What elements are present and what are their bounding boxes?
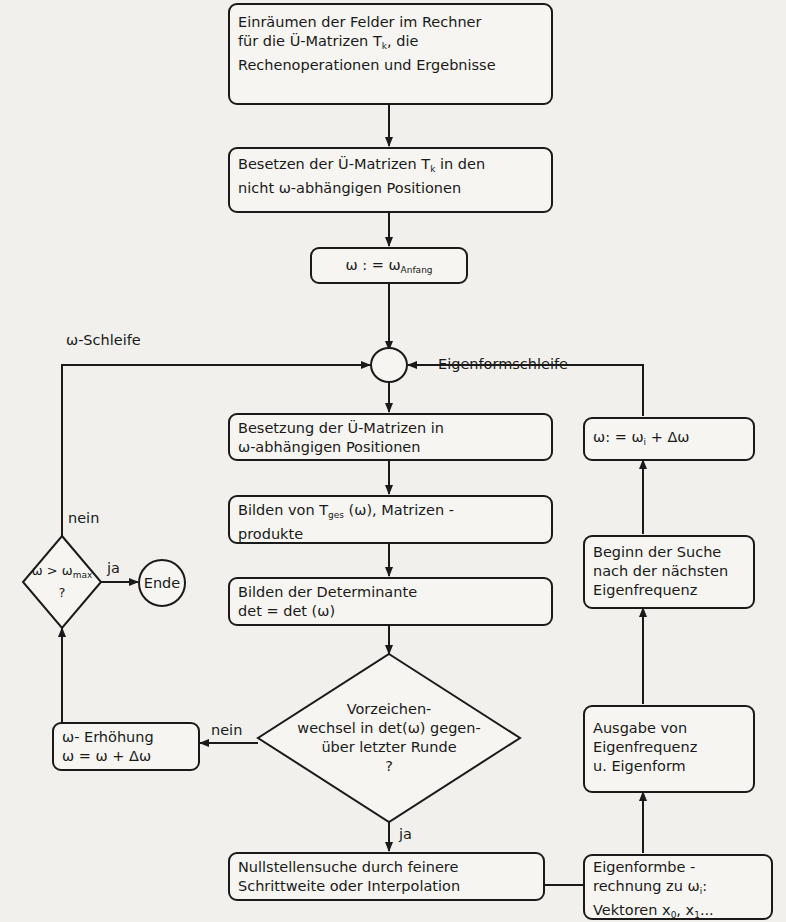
omega-loop-label: ω-Schleife bbox=[66, 332, 141, 348]
eigenform-calc-line-2: rechnung zu ωi: bbox=[593, 877, 763, 901]
next-search-line-2: nach der nächsten bbox=[593, 562, 745, 581]
output-line-1: Ausgabe von bbox=[593, 719, 745, 738]
omega-dependent-matrices-box: Besetzung der Ü-Matrizen in ω-abhängigen… bbox=[228, 413, 553, 461]
next-search-line-3: Eigenfrequenz bbox=[593, 581, 745, 600]
nein-sign-change-label: nein bbox=[211, 722, 242, 738]
set-matrices-box: Besetzen der Ü-Matrizen Tk in den nicht … bbox=[228, 147, 553, 213]
omega-increment-line-2: ω = ω + Δω bbox=[62, 747, 190, 766]
matrix-products-line-1: Bilden von Tges (ω), Matrizen - bbox=[238, 501, 543, 525]
zero-search-line-2: Schrittweite oder Interpolation bbox=[238, 877, 535, 896]
allocate-line-3: Rechenoperationen und Ergebnisse bbox=[238, 56, 543, 75]
omega-start-box: ω : = ωAnfang bbox=[310, 247, 468, 284]
allocate-line-1: Einräumen der Felder im Rechner bbox=[238, 13, 543, 32]
omega-dependent-line-2: ω-abhängigen Positionen bbox=[238, 438, 543, 457]
output-line-2: Eigenfrequenz bbox=[593, 738, 745, 757]
omega-start-text: ω : = ωAnfang bbox=[345, 257, 432, 273]
loop-junction-circle bbox=[370, 347, 408, 383]
zero-search-box: Nullstellensuche durch feinere Schrittwe… bbox=[228, 852, 545, 901]
eigenform-calc-line-3: Vektoren x0, x1... bbox=[593, 901, 763, 922]
omega-dependent-line-1: Besetzung der Ü-Matrizen in bbox=[238, 419, 543, 438]
omega-next-box: ω: = ωi + Δω bbox=[583, 417, 755, 461]
set-matrices-line-2: nicht ω-abhängigen Positionen bbox=[238, 179, 543, 198]
nein-omega-max-label: nein bbox=[68, 510, 99, 526]
next-search-line-1: Beginn der Suche bbox=[593, 543, 745, 562]
allocate-line-2: für die Ü-Matrizen Tk, die bbox=[238, 32, 543, 56]
omega-next-text: ω: = ωi + Δω bbox=[593, 429, 690, 445]
end-label: Ende bbox=[144, 575, 180, 591]
allocate-fields-box: Einräumen der Felder im Rechner für die … bbox=[228, 3, 553, 105]
end-terminal: Ende bbox=[138, 559, 186, 607]
omega-increment-line-1: ω- Erhöhung bbox=[62, 728, 190, 747]
output-eigen-box: Ausgabe von Eigenfrequenz u. Eigenform bbox=[583, 705, 755, 793]
ja-omega-max-label: ja bbox=[107, 560, 120, 576]
determinant-line-2: det = det (ω) bbox=[238, 602, 543, 621]
omega-increment-box: ω- Erhöhung ω = ω + Δω bbox=[52, 722, 200, 771]
matrix-products-box: Bilden von Tges (ω), Matrizen - produkte bbox=[228, 495, 553, 544]
next-eigenfrequency-search-box: Beginn der Suche nach der nächsten Eigen… bbox=[583, 535, 755, 609]
eigenform-calc-line-1: Eigenformbe - bbox=[593, 858, 763, 877]
zero-search-line-1: Nullstellensuche durch feinere bbox=[238, 858, 535, 877]
determinant-line-1: Bilden der Determinante bbox=[238, 583, 543, 602]
determinant-box: Bilden der Determinante det = det (ω) bbox=[228, 577, 553, 626]
output-line-3: u. Eigenform bbox=[593, 757, 745, 776]
set-matrices-line-1: Besetzen der Ü-Matrizen Tk in den bbox=[238, 155, 543, 179]
sign-change-decision: Vorzeichen- wechsel in det(ω) gegen- übe… bbox=[258, 700, 520, 776]
eigenform-loop-label: Eigenformschleife bbox=[438, 356, 568, 372]
omega-max-decision: ω > ωmax ? bbox=[23, 562, 101, 601]
matrix-products-line-2: produkte bbox=[238, 525, 543, 544]
ja-sign-change-label: ja bbox=[399, 826, 412, 842]
eigenform-calc-box: Eigenformbe - rechnung zu ωi: Vektoren x… bbox=[583, 854, 773, 920]
